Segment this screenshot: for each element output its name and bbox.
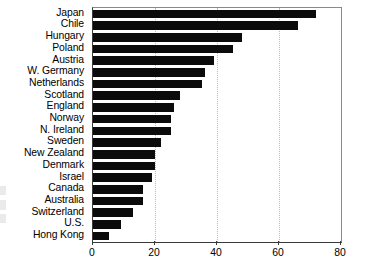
category-label: N. Ireland [40,124,84,136]
bar [93,56,214,65]
axis-tick [216,241,217,245]
category-label: Denmark [43,159,84,171]
axis-tick-label: 80 [334,247,346,258]
category-label: New Zealand [24,147,84,159]
category-label: England [47,100,84,112]
axis-tick-label: 0 [89,247,95,258]
axis-tick [154,241,155,245]
bar [93,68,205,77]
bar [93,162,155,171]
category-label: Netherlands [29,77,84,89]
bar [93,115,171,124]
category-label: W. Germany [27,65,84,77]
category-label: Israel [59,171,84,183]
bar [93,173,152,182]
bar [93,91,180,100]
category-label: Japan [56,7,84,19]
bar [93,45,233,54]
category-label: Hungary [45,30,84,42]
axis-tick [340,241,341,245]
bar [93,138,161,147]
category-label: Austria [52,54,84,66]
category-label: Australia [44,194,84,206]
bar [93,208,133,217]
gridline [217,8,219,242]
value-axis: 020406080 [92,241,341,266]
category-label: Chile [61,18,84,30]
category-axis-labels: JapanChileHungaryPolandAustriaW. Germany… [0,7,88,241]
axis-tick-label: 60 [272,247,284,258]
gridline [279,8,281,242]
gridline [155,8,157,242]
bar-chart: JapanChileHungaryPolandAustriaW. Germany… [0,0,365,266]
category-label: Poland [52,42,84,54]
bar [93,103,174,112]
category-label: Canada [48,182,84,194]
axis-tick [92,241,93,245]
category-label: Switzerland [31,206,84,218]
bar [93,10,316,19]
bar [93,232,109,241]
category-label: Scotland [44,89,84,101]
bar [93,127,171,136]
category-label: U.S. [64,217,84,229]
plot-inner [93,8,341,242]
bar [93,197,143,206]
bar [93,150,155,159]
bar [93,33,242,42]
category-label: Norway [49,112,84,124]
axis-tick-label: 40 [210,247,222,258]
category-label: Sweden [47,135,84,147]
bar [93,80,202,89]
axis-tick [278,241,279,245]
axis-tick-label: 20 [148,247,160,258]
plot-area [92,7,342,243]
bar [93,21,298,30]
bar [93,220,121,229]
bar [93,185,143,194]
category-label: Hong Kong [33,229,84,241]
